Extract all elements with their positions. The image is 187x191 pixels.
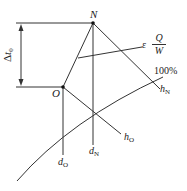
- psychrometric-diagram: N O Δt0 ε Q W 100% hN hO dN dO: [0, 0, 187, 191]
- h-o-sub: O: [129, 136, 134, 144]
- h-n-sub: N: [165, 88, 170, 96]
- diagram-lines: [0, 0, 187, 191]
- fraction-denominator: W: [152, 45, 166, 56]
- point-n-marker: [91, 21, 95, 25]
- epsilon-line: [78, 47, 142, 58]
- d-o-label: dO: [58, 157, 68, 169]
- fraction-numerator: Q: [152, 33, 166, 45]
- d-n-label: dN: [89, 146, 99, 158]
- arrow-up-icon: [19, 24, 24, 31]
- d-n-sub: N: [94, 150, 99, 158]
- epsilon-symbol: ε: [142, 39, 146, 50]
- delta-t0-label: Δt0: [2, 48, 15, 62]
- saturation-100-label: 100%: [154, 66, 177, 76]
- delta-symbol: Δ: [1, 55, 13, 62]
- d-o-sub: O: [63, 161, 68, 169]
- h-n-label: hN: [160, 84, 170, 96]
- h-o-label: hO: [124, 132, 134, 144]
- process-line: [63, 23, 93, 87]
- point-o-marker: [61, 85, 65, 89]
- delta-var: t: [1, 52, 13, 55]
- arrow-down-icon: [19, 79, 24, 86]
- delta-sub: 0: [7, 48, 15, 52]
- epsilon-label: ε: [142, 40, 146, 50]
- h-o-line: [63, 87, 121, 134]
- h-n-line: [93, 23, 160, 89]
- point-n-label: N: [90, 9, 97, 20]
- point-o-label: O: [52, 88, 60, 99]
- saturation-curve: [17, 77, 163, 181]
- epsilon-fraction: Q W: [152, 33, 166, 56]
